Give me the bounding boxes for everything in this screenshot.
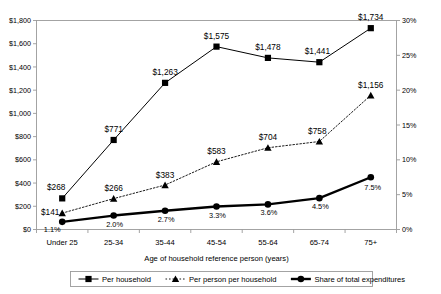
- y-axis-label-left: $1,800: [9, 16, 31, 25]
- data-label-2-6: 7.5%: [364, 183, 381, 192]
- x-axis-category-label: Under 25: [47, 238, 78, 247]
- x-axis-category-label: 35-44: [155, 238, 174, 247]
- data-label-0-4: $1,478: [255, 42, 281, 52]
- y-axis-label-right: 30%: [402, 16, 417, 25]
- x-axis-category-label: 65-74: [310, 238, 329, 247]
- y-axis-label-left: $800: [15, 132, 31, 141]
- data-label-2-0: 1.1%: [44, 225, 61, 234]
- data-point-0-4: [265, 55, 271, 61]
- data-label-1-4: $704: [259, 132, 278, 142]
- legend-label-0: Per household: [102, 275, 151, 284]
- y-axis-label-right: 20%: [402, 86, 417, 95]
- data-point-0-5: [316, 59, 322, 65]
- y-axis-label-right: 0%: [402, 225, 413, 234]
- data-point-2-2: [162, 207, 169, 214]
- data-point-0-1: [111, 137, 117, 143]
- data-label-0-2: $1,263: [152, 67, 178, 77]
- data-label-0-1: $771: [104, 124, 123, 134]
- legend-marker-2: [298, 276, 305, 283]
- data-label-0-0: $268: [47, 182, 66, 192]
- y-axis-label-left: $1,400: [9, 63, 31, 72]
- data-point-2-5: [316, 195, 323, 202]
- data-point-2-1: [110, 212, 117, 219]
- data-point-0-0: [59, 195, 65, 201]
- data-label-1-3: $583: [207, 146, 226, 156]
- y-axis-label-left: $0: [23, 225, 31, 234]
- x-axis-title: Age of household reference person (years…: [144, 254, 289, 263]
- legend-marker-0: [85, 276, 91, 282]
- chart-container: $0$200$400$600$800$1,000$1,200$1,400$1,6…: [0, 0, 441, 294]
- x-axis-category-label: 25-34: [104, 238, 123, 247]
- y-axis-label-left: $1,200: [9, 86, 31, 95]
- data-label-1-6: $1,156: [358, 80, 384, 90]
- y-axis-label-left: $1,600: [9, 39, 31, 48]
- y-axis-label-right: 15%: [402, 121, 417, 130]
- legend-label-1: Per person per household: [189, 275, 276, 284]
- y-axis-label-left: $600: [15, 155, 31, 164]
- data-point-2-3: [213, 203, 220, 210]
- data-point-0-3: [213, 44, 219, 50]
- data-label-2-1: 2.0%: [106, 220, 123, 229]
- data-label-2-5: 4.5%: [312, 202, 329, 211]
- expenditure-line-chart: $0$200$400$600$800$1,000$1,200$1,400$1,6…: [0, 0, 441, 294]
- legend-label-2: Share of total expenditures: [314, 275, 405, 284]
- data-label-1-5: $758: [308, 126, 327, 136]
- x-axis-category-label: 75+: [364, 238, 377, 247]
- y-axis-label-left: $200: [15, 202, 31, 211]
- y-axis-label-right: 5%: [402, 190, 413, 199]
- data-label-0-3: $1,575: [204, 31, 230, 41]
- y-axis-label-right: 25%: [402, 51, 417, 60]
- data-point-0-2: [162, 80, 168, 86]
- y-axis-label-right: 10%: [402, 155, 417, 164]
- data-label-1-0: $141: [41, 207, 60, 217]
- data-label-0-6: $1,734: [358, 12, 384, 22]
- x-axis-category-label: 55-64: [258, 238, 277, 247]
- plot-area: [37, 21, 397, 230]
- data-point-2-6: [367, 174, 374, 181]
- data-label-1-2: $383: [156, 170, 175, 180]
- data-label-2-2: 2.7%: [158, 215, 175, 224]
- x-axis-category-label: 45-54: [207, 238, 226, 247]
- data-label-1-1: $266: [104, 183, 123, 193]
- y-axis-label-left: $400: [15, 179, 31, 188]
- data-label-2-4: 3.6%: [260, 208, 277, 217]
- data-point-2-4: [265, 201, 272, 208]
- y-axis-label-left: $1,000: [9, 109, 31, 118]
- data-label-2-3: 3.3%: [209, 211, 226, 220]
- data-point-0-6: [368, 25, 374, 31]
- data-label-0-5: $1,441: [305, 46, 331, 56]
